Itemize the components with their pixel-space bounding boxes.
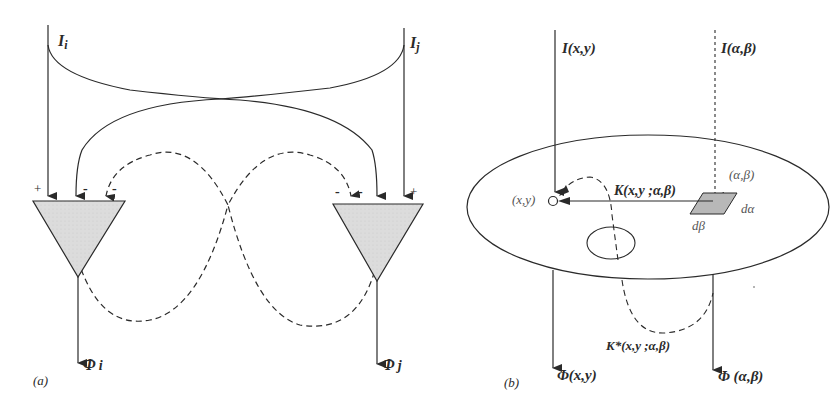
small-region-ellipse — [587, 227, 635, 259]
output-label-j: Φj — [382, 356, 402, 373]
panel-b: I(x,y) I(α,β) (x,y) (α,β) K(x,y ;α,β) dα… — [467, 30, 829, 390]
input-label-ab: I(α,β) — [720, 40, 757, 57]
kernel-label: K(x,y ;α,β) — [613, 183, 676, 199]
minus-sign-i-2: - — [112, 181, 117, 196]
dashed-kernel-star-loop-lower — [622, 280, 713, 333]
minus-sign-i-1: - — [83, 181, 88, 196]
area-patch — [690, 193, 737, 214]
kernel-arrowhead — [558, 197, 570, 205]
point-xy — [549, 197, 558, 206]
d-alpha-label: dα — [741, 201, 756, 216]
dashed-arrowhead — [559, 185, 569, 196]
output-label-i: Φi — [83, 356, 103, 373]
d-beta-label: dβ — [692, 218, 706, 233]
input-label-i: Ii — [57, 32, 68, 52]
caption-a: (a) — [33, 373, 48, 388]
neuron-i-triangle — [33, 201, 125, 277]
output-label-ab: Φ (α,β) — [718, 368, 763, 385]
output-label-xy: Φ(x,y) — [557, 367, 597, 384]
minus-sign-j-2: - — [358, 184, 363, 199]
panel-a: + - - - - + Ii Ij Φi Φj (a) — [33, 25, 423, 388]
cross-connection-j-to-i — [76, 45, 404, 196]
input-label-xy: I(x,y) — [561, 40, 596, 57]
cross-connection-i-to-j — [48, 45, 377, 196]
diagram-canvas: + - - - - + Ii Ij Φi Φj (a) — [0, 0, 836, 410]
minus-sign-j-1: - — [335, 184, 340, 199]
point-label-ab: (α,β) — [729, 167, 754, 182]
input-label-j: Ij — [409, 34, 420, 54]
neuron-j-triangle — [333, 204, 423, 281]
point-label-xy: (x,y) — [512, 192, 535, 207]
caption-b: (b) — [504, 375, 519, 390]
kernel-star-label: K*(x,y ;α,β) — [605, 338, 670, 353]
dashed-kernel-star-loop-upper — [562, 177, 618, 260]
field-ellipse — [467, 135, 829, 279]
plus-sign-j: + — [410, 184, 417, 199]
plus-sign-i: + — [34, 181, 41, 196]
speck — [753, 286, 755, 288]
